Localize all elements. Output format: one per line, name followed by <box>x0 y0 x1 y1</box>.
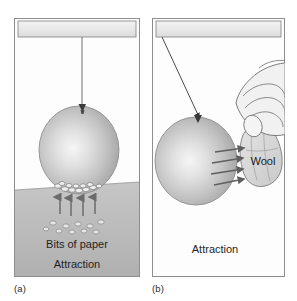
wool-label: Wool <box>251 155 276 167</box>
bits-of-paper-label: Bits of paper <box>46 238 108 250</box>
caption-b: (b) <box>152 283 164 294</box>
support-bar-a <box>18 21 136 37</box>
balloon-a <box>39 106 119 194</box>
panel-b: Wool Attraction <box>153 19 293 277</box>
electrostatic-attraction-figure: Bits of paper Attraction <box>0 0 297 301</box>
support-bar-b <box>156 21 281 37</box>
caption-a: (a) <box>14 283 26 294</box>
attraction-label-a: Attraction <box>54 258 100 270</box>
attraction-label-b: Attraction <box>192 243 238 255</box>
panel-a: Bits of paper Attraction <box>15 19 140 277</box>
